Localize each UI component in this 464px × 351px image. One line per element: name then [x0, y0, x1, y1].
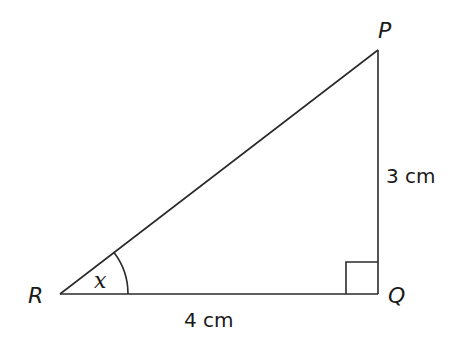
angle-arc-x [114, 253, 128, 294]
vertex-label-r: R [28, 283, 43, 308]
right-angle-marker [346, 262, 378, 294]
vertex-label-p: P [378, 18, 392, 43]
side-rp-hypotenuse [60, 50, 378, 294]
vertex-label-q: Q [388, 283, 405, 308]
side-label-rq: 4 cm [184, 308, 234, 332]
side-label-pq: 3 cm [386, 164, 436, 188]
angle-label-x: x [94, 268, 107, 293]
triangle-diagram: P R Q x 3 cm 4 cm [0, 0, 464, 351]
